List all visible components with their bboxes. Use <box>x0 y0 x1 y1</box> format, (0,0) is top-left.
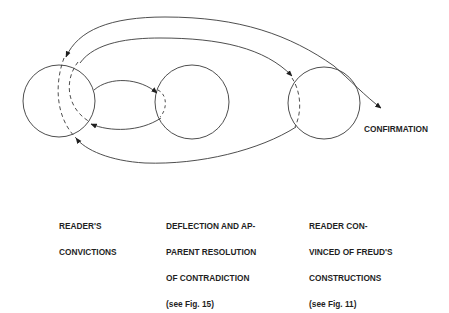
label-line: (see Fig. 15) <box>166 300 256 309</box>
arrow-to-confirmation <box>334 66 381 108</box>
arrow-left-to-middle <box>94 81 157 93</box>
arrow-inner-top <box>80 38 292 76</box>
label-line: CONSTRUCTIONS <box>309 274 393 283</box>
label-line: (see Fig. 11) <box>309 300 393 309</box>
label-line: PARENT RESOLUTION <box>166 248 256 257</box>
label-line: CONVICTIONS <box>59 248 117 257</box>
label-line: VINCED OF FREUD'S <box>309 248 393 257</box>
arrow-bottom <box>76 127 296 163</box>
node-circle-deflection <box>155 65 229 139</box>
label-reader-convinced: READER CON- VINCED OF FREUD'S CONSTRUCTI… <box>309 205 393 313</box>
arrow-outer-top <box>66 17 334 66</box>
dashed-path-right <box>292 78 300 127</box>
dashed-path-middle <box>158 90 165 117</box>
arrow-middle-to-left <box>91 118 161 129</box>
label-deflection: DEFLECTION AND AP- PARENT RESOLUTION OF … <box>166 205 256 313</box>
label-confirmation: CONFIRMATION <box>364 108 428 142</box>
node-circle-reader-convinced <box>288 67 360 139</box>
label-line: READER CON- <box>309 222 393 231</box>
label-line: READER'S <box>59 222 117 231</box>
confirmation-text: CONFIRMATION <box>364 125 428 134</box>
label-readers-convictions: READER'S CONVICTIONS <box>59 205 117 265</box>
label-line: OF CONTRADICTION <box>166 274 256 283</box>
label-line: DEFLECTION AND AP- <box>166 222 256 231</box>
